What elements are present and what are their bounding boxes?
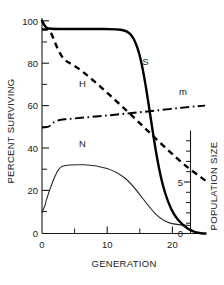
y-axis-title: PERCENT SURVIVING [5, 78, 16, 183]
ytick-label-0: 0 [33, 228, 38, 239]
bottom-axis-tick-labels: 0 10 20 [39, 239, 177, 250]
ytick-label-80: 80 [27, 58, 38, 69]
xtick-label-10: 10 [102, 239, 113, 250]
chart-svg: 100 80 60 40 20 0 0 10 20 5 0 S H m N GE… [0, 0, 224, 285]
left-axis-ticks [42, 21, 49, 212]
curve-label-N: N [79, 138, 86, 149]
x-axis-title: GENERATION [91, 258, 156, 269]
curve-label-H: H [79, 78, 86, 89]
ytick-label-40: 40 [27, 143, 38, 154]
curve-H [42, 30, 206, 181]
ytick-label-20: 20 [27, 185, 38, 196]
bottom-axis-ticks [75, 227, 173, 234]
right-axis-tick-labels: 5 0 [178, 177, 183, 240]
chart-figure: 100 80 60 40 20 0 0 10 20 5 0 S H m N GE… [0, 0, 224, 285]
ytick-label-60: 60 [27, 100, 38, 111]
right-axis-ticks [184, 141, 191, 223]
curve-label-m: m [179, 86, 187, 97]
y2tick-label-5: 5 [178, 177, 183, 188]
left-axis-tick-labels: 100 80 60 40 20 0 [22, 16, 38, 240]
curve-S [42, 21, 206, 234]
y2-axis-title: POPULATION SIZE [208, 142, 219, 231]
y2tick-label-0: 0 [178, 228, 183, 239]
xtick-label-20: 20 [167, 239, 178, 250]
curve-N [42, 165, 191, 226]
ytick-label-100: 100 [22, 16, 38, 27]
curve-label-S: S [142, 56, 148, 67]
xtick-label-0: 0 [39, 239, 44, 250]
